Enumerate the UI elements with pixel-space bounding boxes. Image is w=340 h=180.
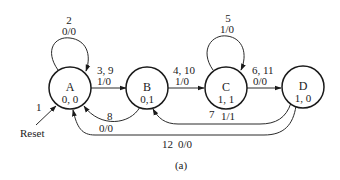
state-name: A [66, 80, 75, 94]
state-output: 0,1 [140, 93, 154, 105]
state-output: 1, 0 [295, 92, 312, 104]
state-output: 0, 0 [62, 93, 79, 105]
transition-b-c: 4, 10 1/0 [168, 64, 204, 88]
reset-number: 1 [36, 101, 42, 113]
state-d: D 1, 0 [282, 66, 324, 108]
figure-caption: (a) [175, 159, 188, 172]
transition-number: 7 [209, 108, 215, 120]
transition-label: 0/0 [253, 75, 268, 87]
transition-label: 0/0 [178, 138, 193, 150]
transition-label: 0/0 [99, 122, 114, 134]
state-b: B 0,1 [126, 67, 168, 109]
state-name: D [299, 79, 308, 93]
state-name: B [143, 80, 151, 94]
transition-number: 8 [107, 110, 113, 122]
state-output: 1, 1 [218, 93, 235, 105]
state-c: C 1, 1 [205, 67, 247, 109]
edge-a-a [52, 38, 89, 71]
state-name: C [222, 80, 230, 94]
transition-a-b: 3, 9 1/0 [91, 64, 126, 88]
transition-number: 12 [162, 138, 173, 150]
transition-label: 1/0 [175, 75, 190, 87]
reset-label: Reset [20, 127, 44, 139]
transition-b-a: 8 [84, 106, 140, 122]
edge-c-c [207, 36, 244, 70]
state-a: A 0, 0 [49, 67, 91, 109]
transition-c-c: 5 1/0 [207, 12, 244, 70]
reset-transition: Reset 1 [20, 101, 56, 139]
transition-label: 1/1 [221, 110, 235, 122]
state-diagram: 2 0/0 3, 9 1/0 8 4, 10 1/0 5 1/0 6, 11 0… [0, 0, 340, 180]
transition-a-a: 2 0/0 [52, 14, 89, 71]
transition-c-d: 6, 11 0/0 [247, 64, 281, 88]
transition-label: 1/0 [220, 23, 235, 35]
transition-label: 0/0 [62, 25, 77, 37]
transition-label: 1/0 [97, 75, 112, 87]
